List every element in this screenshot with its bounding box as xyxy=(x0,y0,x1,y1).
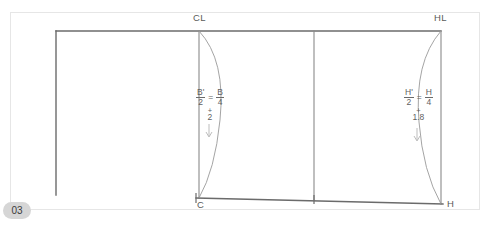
drawing-canvas: CL HL C H B' 2 = B 4 + 2 H' 2 = H xyxy=(0,0,492,225)
vertex-label-hl: HL xyxy=(434,12,447,23)
bust-left-fraction: B' 2 xyxy=(196,88,205,107)
bust-formula-equation: B' 2 = B 4 xyxy=(196,88,224,107)
bust-formula: B' 2 = B 4 + 2 xyxy=(196,88,224,122)
vertex-label-c: C xyxy=(197,199,204,210)
page-number-badge: 03 xyxy=(3,202,31,219)
hip-formula: H' 2 = H 4 + 1.8 xyxy=(404,88,433,122)
hip-right-fraction: H 4 xyxy=(425,88,433,107)
hip-left-fraction: H' 2 xyxy=(404,88,414,107)
hip-left-denominator: 2 xyxy=(406,98,413,107)
hip-right-denominator: 4 xyxy=(425,98,432,107)
bust-equals-sign: = xyxy=(207,93,214,102)
bust-right-denominator: 4 xyxy=(217,98,224,107)
bust-formula-arrow-icon xyxy=(206,124,212,137)
bottom-horizontal-line xyxy=(196,198,443,204)
vertex-label-cl: CL xyxy=(193,12,206,23)
hip-addend: 1.8 xyxy=(404,113,433,122)
hip-equals-sign: = xyxy=(416,93,423,102)
bust-right-fraction: B 4 xyxy=(216,88,224,107)
vertex-label-h: H xyxy=(447,198,454,209)
hip-formula-arrow-icon xyxy=(414,128,420,141)
bust-addend: 2 xyxy=(196,113,224,122)
hip-formula-equation: H' 2 = H 4 xyxy=(404,88,433,107)
bust-left-denominator: 2 xyxy=(197,98,204,107)
